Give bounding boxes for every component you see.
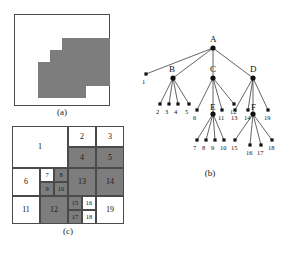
tree-leaf-label: 1 — [142, 78, 145, 85]
tree-leaf-node — [266, 108, 269, 111]
tree-internal-node — [210, 45, 215, 50]
tree-leaf-label: 13 — [231, 114, 238, 121]
tree-leaf-node — [220, 108, 223, 111]
panel-c-cell: 9 — [40, 182, 54, 196]
panel-c-cell: 18 — [82, 210, 96, 224]
tree-node-label-b: B — [169, 64, 175, 74]
panel-c-cell: 3 — [96, 126, 124, 147]
tree-leaf-node — [246, 108, 249, 111]
panel-c-cell: 11 — [12, 196, 40, 224]
tree-edge — [173, 48, 213, 78]
tree-leaf-label: 11 — [218, 114, 224, 121]
panel-a-raster-image — [14, 14, 110, 106]
panel-c-cell: 8 — [54, 168, 68, 182]
tree-internal-node — [250, 75, 255, 80]
panel-c-cell: 6 — [12, 168, 40, 196]
tree-internal-node — [210, 111, 215, 116]
tree-edge — [213, 78, 234, 104]
tree-leaf-label: 3 — [165, 108, 168, 115]
tree-leaf-label: 9 — [211, 144, 214, 151]
panel-c-cell: 16 — [82, 196, 96, 210]
tree-leaf-node — [158, 102, 161, 105]
panel-c-cell: 19 — [96, 196, 124, 224]
tree-node-label-a: A — [210, 34, 217, 44]
panel-a-block — [74, 86, 86, 98]
tree-leaf-label: 19 — [264, 114, 271, 121]
tree-leaf-node — [270, 138, 273, 141]
panel-a-block — [62, 38, 110, 86]
tree-leaf-label: 2 — [156, 108, 159, 115]
tree-edge — [213, 48, 253, 78]
tree-leaf-node — [248, 143, 251, 146]
panel-c-cell: 15 — [68, 196, 82, 210]
tree-leaf-label: 10 — [220, 144, 227, 151]
panel-c-cell: 4 — [68, 147, 96, 168]
tree-edge — [206, 114, 213, 140]
tree-leaf-label: 15 — [231, 144, 238, 151]
tree-edge — [253, 114, 261, 145]
tree-node-label-d: D — [250, 64, 257, 74]
tree-leaf-node — [204, 138, 207, 141]
panel-c-cell: 17 — [68, 210, 82, 224]
panel-a-block — [38, 86, 74, 98]
tree-leaf-node — [232, 102, 235, 105]
panel-c-caption: (c) — [12, 226, 124, 236]
tree-leaf-label: 4 — [174, 108, 177, 115]
panel-c-cell: 10 — [54, 182, 68, 196]
panel-c-block-decomposition: 12345678910131411121516171819 — [12, 126, 124, 224]
tree-leaf-label: 7 — [193, 144, 196, 151]
tree-leaf-node — [144, 72, 147, 75]
tree-internal-node — [210, 75, 215, 80]
quadtree-figure: (a) ABCDEF12345611127891013141915161718 … — [0, 0, 285, 253]
tree-leaf-node — [213, 138, 216, 141]
panel-a-block — [50, 50, 62, 86]
tree-leaf-node — [259, 143, 262, 146]
tree-leaf-node — [187, 102, 190, 105]
tree-leaf-label: 8 — [202, 144, 205, 151]
tree-internal-node — [170, 75, 175, 80]
tree-internal-node — [250, 111, 255, 116]
tree-leaf-label: 17 — [257, 149, 264, 156]
tree-leaf-node — [233, 138, 236, 141]
tree-node-label-f: F — [251, 102, 256, 112]
tree-leaf-label: 14 — [244, 114, 251, 121]
panel-c-cell: 7 — [40, 168, 54, 182]
panel-c-cell: 13 — [68, 168, 96, 196]
tree-leaf-node — [195, 108, 198, 111]
tree-edge — [197, 114, 213, 140]
panel-c-cell: 5 — [96, 147, 124, 168]
tree-leaf-label: 16 — [246, 149, 253, 156]
panel-c-cell: 1 — [12, 126, 68, 168]
panel-b-caption: (b) — [175, 168, 245, 178]
tree-leaf-label: 6 — [193, 114, 196, 121]
panel-b-quadtree: ABCDEF12345611127891013141915161718 — [140, 18, 285, 168]
tree-leaf-node — [222, 138, 225, 141]
panel-a-caption: (a) — [14, 107, 110, 117]
tree-node-label-e: E — [210, 102, 216, 112]
tree-leaf-node — [176, 102, 179, 105]
panel-c-cell: 14 — [96, 168, 124, 196]
panel-c-cell: 12 — [40, 196, 68, 224]
tree-edge — [146, 48, 213, 74]
tree-node-label-c: C — [210, 64, 216, 74]
panel-c-cell: 2 — [68, 126, 96, 147]
tree-leaf-node — [167, 102, 170, 105]
tree-leaf-label: 18 — [268, 144, 275, 151]
tree-leaf-node — [195, 138, 198, 141]
tree-leaf-label: 5 — [185, 108, 188, 115]
